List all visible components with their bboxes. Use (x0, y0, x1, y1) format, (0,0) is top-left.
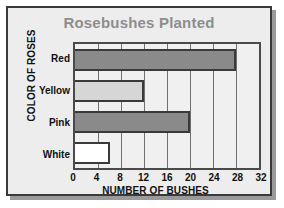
x-tick-label: 20 (185, 172, 196, 183)
x-tick-label: 16 (161, 172, 172, 183)
bars-layer (75, 44, 259, 168)
bar-row (75, 75, 259, 106)
x-tick-label: 12 (138, 172, 149, 183)
chart-card: Rosebushes Planted COLOR OF ROSES RedYel… (6, 6, 272, 196)
category-label: Pink (26, 106, 73, 138)
x-tick-label: 24 (208, 172, 219, 183)
bar-white (75, 142, 110, 164)
x-tick-label: 0 (70, 172, 76, 183)
x-axis-tick-labels: 048121620242832 (73, 172, 261, 185)
x-tick-label: 8 (117, 172, 123, 183)
category-label: Red (26, 42, 73, 74)
x-tick-label: 4 (94, 172, 100, 183)
chart-title: Rosebushes Planted (8, 14, 270, 31)
bar-row (75, 137, 259, 168)
bar-yellow (75, 80, 144, 102)
x-tick-label: 28 (232, 172, 243, 183)
bar-pink (75, 111, 190, 133)
bar-row (75, 44, 259, 75)
bar-row (75, 106, 259, 137)
plot-area (73, 42, 261, 170)
category-label: Yellow (26, 74, 73, 106)
category-label: White (26, 138, 73, 170)
x-tick-label: 32 (255, 172, 266, 183)
category-axis-labels: RedYellowPinkWhite (26, 42, 73, 170)
bar-red (75, 49, 236, 71)
x-axis-title: NUMBER OF BUSHES (48, 185, 263, 196)
